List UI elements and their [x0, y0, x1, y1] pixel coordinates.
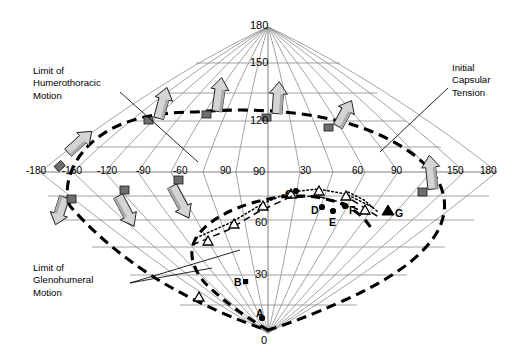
arrow-expansion-8	[164, 176, 197, 222]
point-label-G: G	[395, 203, 403, 221]
axis-tick-vertical-90: 90	[253, 161, 265, 179]
annotation-line: Motion	[33, 287, 93, 299]
axis-tick-horizontal-90-left: 90	[220, 160, 231, 178]
annotation-line: Humerothoracic	[33, 77, 101, 89]
arrow-expansion-9	[47, 194, 76, 227]
point-marker-G	[382, 205, 394, 215]
point-marker-D	[319, 204, 325, 210]
axis-tick-vertical-30: 30	[255, 264, 267, 282]
point-label-C: C	[285, 184, 293, 202]
point-label-B: B	[234, 272, 242, 290]
annotation-line: Tension	[452, 87, 490, 99]
annotation-line: Motion	[33, 90, 101, 102]
axis-tick-horizontal-180: 180	[480, 160, 497, 178]
axis-tick-horizontal-neg60: -60	[173, 160, 187, 178]
annotation-line: Limit of	[33, 262, 93, 274]
point-label-D: D	[311, 200, 319, 218]
axis-tick-horizontal-150: 150	[447, 160, 464, 178]
axis-tick-horizontal-neg90: -90	[136, 160, 150, 178]
point-marker-B	[243, 279, 248, 284]
annotation-limit-glenohumeral: Limit of Glenohumeral Motion	[33, 262, 93, 299]
axis-tick-horizontal-90-right: 90	[391, 160, 402, 178]
point-label-E: E	[329, 212, 336, 230]
point-marker-C	[293, 188, 299, 194]
axis-tick-horizontal-60: 60	[352, 160, 363, 178]
annotation-initial-capsular-tension: Initial Capsular Tension	[452, 62, 490, 99]
annotation-limit-humerothoracic: Limit of Humerothoracic Motion	[33, 65, 101, 102]
figure-canvas: 180 150 120 90 60 30 0 -180 -150 -120 -9…	[0, 0, 518, 352]
axis-tick-horizontal-30: 30	[300, 160, 311, 178]
axis-tick-vertical-60: 60	[255, 212, 267, 230]
annotation-line: Limit of	[33, 65, 101, 77]
axis-tick-vertical-120: 120	[250, 110, 268, 128]
point-label-A: A	[256, 303, 264, 321]
leader-lines	[120, 88, 448, 283]
axis-tick-horizontal-neg180: -180	[26, 160, 46, 178]
axis-tick-vertical-0: 0	[261, 330, 267, 348]
point-marker-F	[342, 203, 348, 209]
annotation-line: Initial	[452, 62, 490, 74]
axis-tick-horizontal-neg150: -150	[62, 160, 82, 178]
annotation-line: Glenohumeral	[33, 274, 93, 286]
axis-tick-vertical-150: 150	[250, 52, 268, 70]
axis-tick-vertical-180: 180	[250, 15, 268, 33]
axis-tick-horizontal-neg120: -120	[97, 160, 117, 178]
point-label-F: F	[349, 200, 355, 218]
annotation-line: Capsular	[452, 74, 490, 86]
